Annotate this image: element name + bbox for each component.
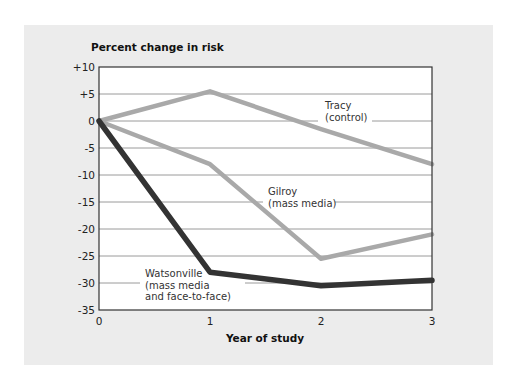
x-tick-label: 0 [96,315,103,327]
y-tick-label: -35 [78,304,95,316]
y-axis-title: Percent change in risk [91,41,225,53]
y-tick-label: -30 [78,277,95,289]
line-chart: Percent change in risk +10+50-5-10-15-20… [0,0,521,387]
y-tick-label: +5 [80,88,95,100]
y-axis-ticks: +10+50-5-10-15-20-25-30-35 [73,61,95,316]
y-tick-label: -15 [78,196,95,208]
y-tick-label: -25 [78,250,95,262]
x-tick-label: 1 [207,315,214,327]
y-tick-label: 0 [88,115,95,127]
y-tick-label: -5 [85,142,95,154]
y-tick-label: -10 [78,169,95,181]
x-tick-label: 2 [318,315,325,327]
x-axis-ticks: 0123 [96,315,436,327]
x-axis-title: Year of study [225,332,304,344]
y-tick-label: +10 [73,61,95,73]
y-tick-label: -20 [78,223,95,235]
x-tick-label: 3 [429,315,436,327]
